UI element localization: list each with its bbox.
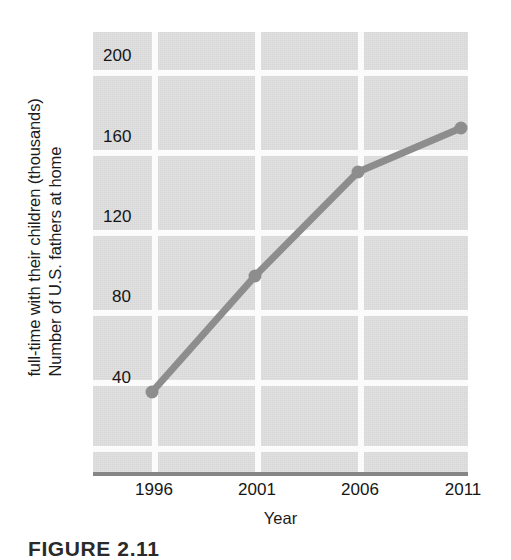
y-axis-title-line-2: full-time with their children (thousands… [24, 98, 45, 376]
gridline-horizontal-0 [93, 446, 468, 452]
gridline-vertical-2001 [255, 32, 261, 472]
plot-area: 200 160 120 80 40 [93, 32, 468, 472]
gridline-vertical-1996 [152, 32, 158, 472]
y-tick-label-40: 40 [112, 369, 131, 386]
gridline-horizontal-40 [93, 380, 468, 386]
x-axis-line [93, 472, 468, 476]
figure-caption: FIGURE 2.11 [28, 537, 159, 560]
gridline-horizontal-160 [93, 150, 468, 156]
y-tick-label-160: 160 [103, 128, 131, 145]
x-tick-label-1996: 1996 [135, 481, 173, 498]
gridline-vertical-2006 [358, 32, 364, 472]
y-tick-label-80: 80 [112, 288, 131, 305]
y-axis-title-line-1: Number of U.S. fathers at home [45, 147, 66, 377]
plot-background-texture [93, 32, 468, 472]
gridline-horizontal-200 [93, 70, 468, 76]
y-axis-title: Number of U.S. fathers at home full-time… [0, 0, 90, 475]
gridline-horizontal-120 [93, 230, 468, 236]
y-tick-label-120: 120 [103, 208, 131, 225]
gridline-horizontal-80 [93, 310, 468, 316]
x-axis-title: Year [93, 509, 468, 528]
x-tick-label-2001: 2001 [238, 481, 276, 498]
x-tick-label-2006: 2006 [341, 481, 379, 498]
x-tick-label-2011: 2011 [445, 481, 482, 498]
y-tick-label-200: 200 [103, 47, 131, 64]
